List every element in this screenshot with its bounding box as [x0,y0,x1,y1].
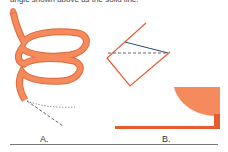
dashed-line-a [27,101,63,126]
square-edges [107,23,170,86]
figure-label-a: A. [40,134,49,144]
tilted-square-figure [107,23,170,86]
coil-figure [11,9,87,127]
solid-angle-line [125,42,168,53]
base-line [115,126,220,129]
figure-label-b: B. [162,134,171,144]
dotted-curve [27,101,75,107]
divider-line [10,144,218,145]
quarter-circle-figure [115,87,220,129]
diagram-canvas [0,0,228,152]
stem [214,114,220,128]
quarter-circle [174,87,220,116]
coil-end-cap [11,9,16,14]
coil-body [13,12,86,100]
